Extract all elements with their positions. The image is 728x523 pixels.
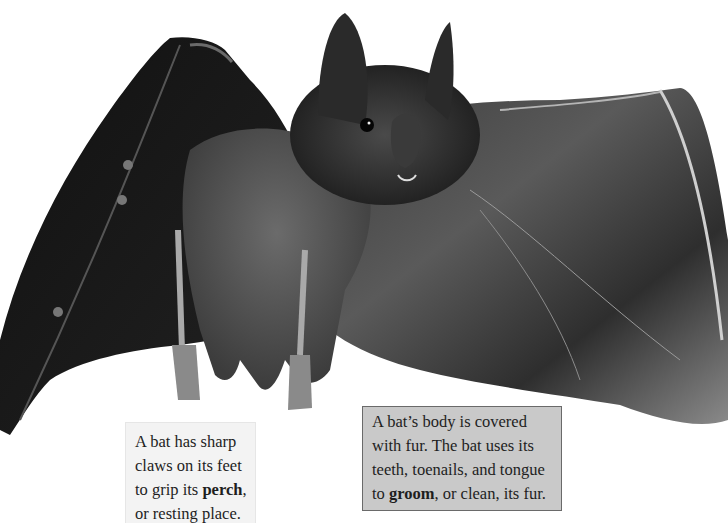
caption-claws-line-2: claws on its feet — [135, 454, 255, 478]
caption-claws: A bat has sharp claws on its feet to gri… — [125, 422, 256, 523]
bat-head — [290, 13, 480, 205]
vocab-term-groom: groom — [389, 484, 435, 503]
caption-grooming: A bat’s body is covered with fur. The ba… — [362, 406, 562, 511]
caption-claws-line-4: or resting place. — [135, 502, 255, 523]
caption-text: to grip its — [135, 480, 202, 499]
caption-claws-line-3: to grip its perch, — [135, 478, 255, 502]
vocab-term-perch: perch — [202, 480, 242, 499]
caption-grooming-line-2: with fur. The bat uses its — [372, 434, 561, 458]
caption-claws-line-1: A bat has sharp — [135, 430, 255, 454]
caption-grooming-line-4: to groom, or clean, its fur. — [372, 482, 561, 506]
caption-grooming-line-3: teeth, toenails, and tongue — [372, 458, 561, 482]
caption-text: , — [242, 480, 246, 499]
caption-text: , or clean, its fur. — [435, 484, 546, 503]
caption-text: to — [372, 484, 389, 503]
caption-grooming-line-1: A bat’s body is covered — [372, 410, 561, 434]
